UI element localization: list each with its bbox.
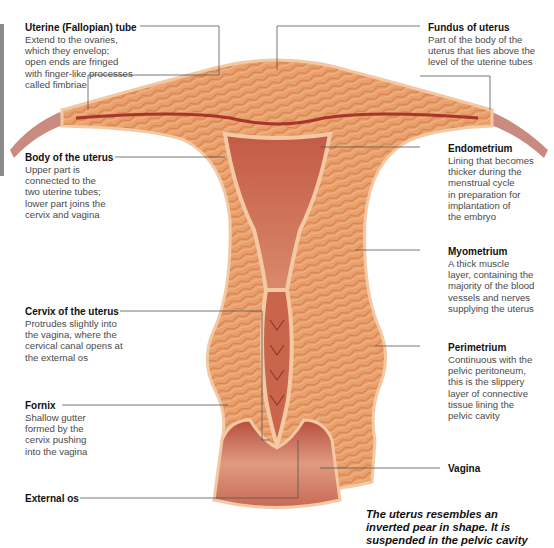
label-title: Fundus of uterus xyxy=(428,22,554,34)
label-myometrium: Myometrium A thick muscle layer, contain… xyxy=(448,246,554,314)
label-uterine-tube: Uterine (Fallopian) tube Extend to the o… xyxy=(25,22,185,90)
label-title: External os xyxy=(25,493,105,505)
label-body-of-uterus: Body of the uterus Upper part is connect… xyxy=(25,152,145,220)
label-desc: Continuous with the pelvic peritoneum, t… xyxy=(448,354,554,421)
label-title: Fornix xyxy=(25,400,125,412)
label-desc: Upper part is connected to the two uteri… xyxy=(25,164,145,220)
label-title: Vagina xyxy=(448,463,528,475)
label-cervix: Cervix of the uterus Protrudes slightly … xyxy=(25,306,155,363)
label-title: Myometrium xyxy=(448,246,554,258)
label-fundus: Fundus of uterus Part of the body of the… xyxy=(428,22,554,68)
label-title: Body of the uterus xyxy=(25,152,145,164)
label-desc: A thick muscle layer, containing the maj… xyxy=(448,258,554,314)
label-desc: Protrudes slightly into the vagina, wher… xyxy=(25,318,155,363)
label-title: Endometrium xyxy=(448,143,554,155)
label-vagina: Vagina xyxy=(448,463,528,475)
label-perimetrium: Perimetrium Continuous with the pelvic p… xyxy=(448,342,554,421)
figure-caption: The uterus resembles an inverted pear in… xyxy=(366,508,554,547)
label-title: Perimetrium xyxy=(448,342,554,354)
label-desc: Lining that becomes thicker during the m… xyxy=(448,155,554,222)
label-endometrium: Endometrium Lining that becomes thicker … xyxy=(448,143,554,222)
label-desc: Part of the body of the uterus that lies… xyxy=(428,34,554,68)
label-title: Uterine (Fallopian) tube xyxy=(25,22,185,34)
label-desc: Shallow gutter formed by the cervix push… xyxy=(25,412,125,457)
label-title: Cervix of the uterus xyxy=(25,306,155,318)
label-external-os: External os xyxy=(25,493,105,505)
label-desc: Extend to the ovaries, which they envelo… xyxy=(25,34,185,90)
label-fornix: Fornix Shallow gutter formed by the cerv… xyxy=(25,400,125,457)
